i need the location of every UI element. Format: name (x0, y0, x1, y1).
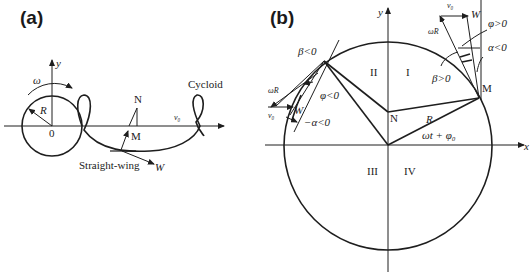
panel-b: (b) x y II I III IV N M R ωt + φ₀ (265, 0, 529, 272)
diagram-canvas: (a) y 0 R ω N M W v₀ Cycloid Straight-wi… (0, 0, 531, 278)
point-n-label: N (390, 112, 398, 124)
panel-a-label: (a) (20, 7, 43, 28)
omega-r-right-label: ωR (428, 27, 439, 36)
right-phi-arc (462, 30, 487, 46)
w-right-label: W (471, 8, 481, 20)
point-m-label: M (482, 82, 492, 94)
right-blade-mark (462, 60, 472, 62)
origin-label: 0 (49, 127, 55, 139)
phi-neg-label: φ<0 (320, 89, 340, 101)
right-alpha-arc (477, 57, 483, 72)
point-m-label: M (131, 130, 141, 142)
alpha-neg-right-label: α<0 (488, 41, 507, 53)
lift-arrow (121, 131, 128, 150)
omega-label: ω (33, 74, 41, 86)
alpha-neg-left-label: −α<0 (304, 116, 331, 128)
velocity-label: v₀ (174, 113, 181, 122)
w-label: W (155, 161, 165, 173)
quadrant-ii-label: II (370, 66, 378, 78)
nm-diagonal (129, 108, 137, 126)
angle-label: ωt + φ₀ (422, 129, 456, 141)
straight-wing-label: Straight-wing (79, 159, 140, 171)
beta-neg-label: β<0 (297, 45, 317, 57)
quadrant-iv-label: IV (404, 165, 416, 177)
panel-a: (a) y 0 R ω N M W v₀ Cycloid Straight-wi… (4, 7, 224, 173)
v0-right-label: v₀ (447, 1, 454, 10)
beta-pos-label: β>0 (431, 72, 451, 84)
phi-pos-label: φ>0 (488, 17, 508, 29)
panel-b-label: (b) (270, 7, 294, 28)
left-to-o-line (324, 61, 388, 145)
v0-left-label: v₀ (268, 111, 275, 120)
y-axis-label: y (55, 57, 61, 69)
left-to-n-line (324, 61, 388, 112)
quadrant-iii-label: III (367, 165, 378, 177)
point-n-label: N (134, 93, 142, 105)
x-axis-label: x (523, 140, 529, 152)
right-alpha-mark (460, 54, 470, 57)
omega-r-left-label: ωR (268, 86, 279, 95)
cycloid-label: Cycloid (188, 78, 223, 90)
w-left-label: W (294, 104, 304, 116)
radius-label: R (425, 113, 433, 125)
y-axis-label: y (377, 6, 383, 18)
quadrant-i-label: I (406, 66, 410, 78)
radius-label: R (39, 104, 47, 116)
